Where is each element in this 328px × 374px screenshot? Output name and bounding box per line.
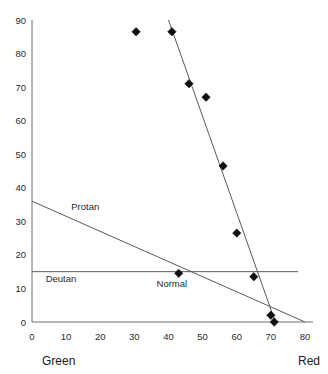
x-tick-label: 10: [61, 331, 72, 342]
x-tick-label: 30: [129, 331, 140, 342]
data-point-marker: [175, 269, 183, 277]
y-tick-label: 60: [15, 115, 26, 126]
x-axis-label-red: Red: [298, 354, 320, 368]
data-point-marker: [219, 162, 227, 170]
data-point-marker: [132, 28, 140, 36]
annotation-label-protan: Protan: [71, 201, 99, 212]
y-tick-label: 30: [15, 216, 26, 227]
data-point-marker: [202, 93, 210, 101]
x-tick-label: 0: [29, 331, 34, 342]
regression-line: [169, 20, 276, 322]
y-tick-label: 10: [15, 283, 26, 294]
x-axis-tick-labels: 01020304050607080: [29, 331, 310, 342]
x-tick-label: 80: [300, 331, 311, 342]
x-tick-label: 20: [95, 331, 106, 342]
x-axis-label-green: Green: [42, 354, 75, 368]
y-tick-label: 50: [15, 149, 26, 160]
y-tick-label: 0: [21, 317, 26, 328]
data-point-marker: [168, 28, 176, 36]
x-tick-label: 40: [163, 331, 174, 342]
x-tick-label: 60: [231, 331, 242, 342]
y-axis-tick-labels: 0102030405060708090: [15, 15, 26, 328]
x-tick-label: 70: [266, 331, 277, 342]
y-tick-label: 80: [15, 48, 26, 59]
annotation-label-normal: Normal: [157, 278, 188, 289]
chart-canvas: 0102030405060708090 01020304050607080 Pr…: [0, 0, 328, 374]
y-tick-label: 40: [15, 182, 26, 193]
protan-line: [32, 201, 305, 322]
data-point-marker: [233, 229, 241, 237]
annotation-label-deutan: Deutan: [46, 273, 77, 284]
plot-annotations: ProtanDeutanNormal: [46, 201, 188, 289]
confusion-line-scatter-chart: 0102030405060708090 01020304050607080 Pr…: [0, 0, 328, 374]
y-tick-label: 90: [15, 15, 26, 26]
y-tick-label: 20: [15, 249, 26, 260]
y-tick-label: 70: [15, 82, 26, 93]
data-point-markers: [132, 28, 279, 327]
data-point-marker: [250, 273, 258, 281]
x-tick-label: 50: [197, 331, 208, 342]
